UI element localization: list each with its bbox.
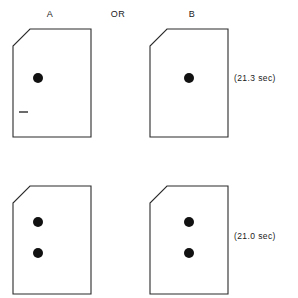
card-outline-shape <box>150 186 228 294</box>
column-label-b: B <box>172 10 212 19</box>
stimulus-figure: A OR B (21.3 sec) (21.0 sec) <box>0 0 298 298</box>
stimulus-dot <box>184 248 194 258</box>
stimulus-card-row1-a <box>12 28 92 138</box>
duration-label-row2: (21.0 sec) <box>234 232 276 241</box>
stimulus-dot <box>184 217 194 227</box>
stimulus-dot <box>33 73 43 83</box>
column-connector-label-or: OR <box>98 10 138 19</box>
column-label-a: A <box>30 10 70 19</box>
stimulus-card-row2-a <box>12 185 92 295</box>
card-outline-shape <box>13 186 91 294</box>
stimulus-dot <box>33 248 43 258</box>
duration-label-row1: (21.3 sec) <box>234 74 276 83</box>
stimulus-dot <box>184 73 194 83</box>
stimulus-card-row1-b <box>149 28 229 138</box>
stimulus-dot <box>33 217 43 227</box>
stimulus-card-row2-b <box>149 185 229 295</box>
card-outline-shape <box>13 29 91 137</box>
